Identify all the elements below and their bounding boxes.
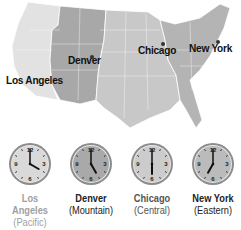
clock-face-icon: 12 3 6 9 [191, 142, 235, 186]
clock-city-name: New York [186, 192, 241, 204]
city-marker-icon [161, 42, 165, 46]
clock-caption: New York(Eastern) [186, 192, 241, 216]
clock-row: 12 3 6 9 Los Angeles(Pacific) 12 3 6 9 D… [0, 142, 241, 230]
city-label-los-angeles: Los Angeles [6, 74, 63, 86]
clock-new-york: 12 3 6 9 [191, 142, 235, 186]
clock-city-name: Chicago [125, 192, 180, 204]
clock-los-angeles: 12 3 6 9 [8, 142, 52, 186]
clock-chicago: 12 3 6 9 [130, 142, 174, 186]
city-marker-icon [216, 40, 220, 44]
city-marker-icon [90, 55, 94, 59]
clock-city-name: Los Angeles [3, 192, 58, 216]
clock-denver: 12 3 6 9 [69, 142, 113, 186]
clock-caption: Chicago(Central) [125, 192, 180, 216]
clock-zone-name: (Eastern) [186, 204, 241, 216]
clock-zone-name: (Mountain) [64, 204, 119, 216]
clock-face-icon: 12 3 6 9 [8, 142, 52, 186]
clock-caption: Denver(Mountain) [64, 192, 119, 216]
clock-face-icon: 12 3 6 9 [69, 142, 113, 186]
clock-caption: Los Angeles(Pacific) [3, 192, 58, 228]
city-label-new-york: New York [189, 42, 232, 54]
city-label-chicago: Chicago [138, 44, 176, 56]
clock-zone-name: (Pacific) [3, 216, 58, 228]
clock-zone-name: (Central) [125, 204, 180, 216]
city-label-denver: Denver [68, 54, 101, 66]
clock-face-icon: 12 3 6 9 [130, 142, 174, 186]
us-time-zone-map [0, 0, 241, 130]
clock-city-name: Denver [64, 192, 119, 204]
